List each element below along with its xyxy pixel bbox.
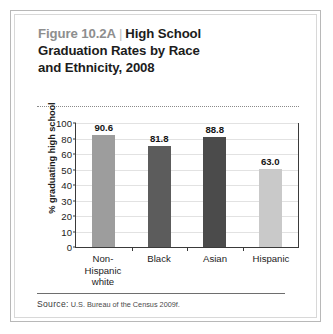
bar-slot: 81.8: [132, 123, 188, 247]
figure-number: Figure 10.2A: [38, 26, 116, 41]
x-axis-tick-mark: [243, 247, 244, 251]
x-axis-category-label: Black: [131, 253, 187, 288]
bar-slot: 88.8: [187, 123, 243, 247]
figure-title-line1: High School: [125, 26, 201, 41]
x-axis-labels: Non-HispanicwhiteBlackAsianHispanic: [75, 253, 299, 288]
bar-slot: 90.6: [76, 123, 132, 247]
bar[interactable]: 81.8: [148, 146, 171, 247]
bars-container: 90.681.888.863.0: [76, 123, 298, 247]
x-axis-category-label: Hispanic: [243, 253, 299, 288]
y-axis-tick-label: 30: [61, 195, 72, 206]
source-label: Source:: [37, 299, 69, 309]
bar-value-label: 81.8: [150, 133, 169, 144]
bar-value-label: 90.6: [94, 122, 113, 133]
plot-area: 100806050403020100 90.681.888.863.0: [75, 123, 299, 248]
figure-title: Figure 10.2A|High School Graduation Rate…: [38, 25, 298, 76]
y-axis-tick-label: 20: [61, 211, 72, 222]
x-axis-category-label: Non-Hispanicwhite: [75, 253, 131, 288]
y-axis-tick-label: 40: [61, 180, 72, 191]
bar-chart: % graduating high school 100806050403020…: [31, 115, 301, 275]
x-axis-category-label: Asian: [187, 253, 243, 288]
bar[interactable]: 90.6: [92, 135, 115, 247]
y-axis-tick-label: 10: [61, 226, 72, 237]
figure-frame: Figure 10.2A|High School Graduation Rate…: [10, 10, 321, 322]
title-divider: [37, 106, 299, 108]
bar-value-label: 63.0: [261, 156, 280, 167]
source-note: Source: U.S. Bureau of the Census 2009f.: [37, 299, 180, 309]
figure-title-line3: and Ethnicity, 2008: [38, 60, 155, 75]
source-divider: [37, 293, 285, 294]
bar-value-label: 88.8: [205, 124, 224, 135]
title-separator: |: [116, 26, 125, 41]
source-text: U.S. Bureau of the Census 2009f.: [71, 300, 180, 309]
y-axis-tick-label: 0: [67, 242, 72, 253]
x-axis-tick-mark: [132, 247, 133, 251]
figure-content: Figure 10.2A|High School Graduation Rate…: [31, 25, 301, 305]
y-axis-tick-label: 50: [61, 164, 72, 175]
x-axis-tick-mark: [187, 247, 188, 251]
y-axis-tick-label: 80: [61, 133, 72, 144]
bar[interactable]: 88.8: [203, 137, 226, 247]
y-axis-tick-label: 100: [56, 118, 72, 129]
figure-title-line2: Graduation Rates by Race: [38, 43, 200, 58]
bar[interactable]: 63.0: [259, 169, 282, 247]
y-axis-tick-label: 60: [61, 149, 72, 160]
bar-slot: 63.0: [243, 123, 299, 247]
